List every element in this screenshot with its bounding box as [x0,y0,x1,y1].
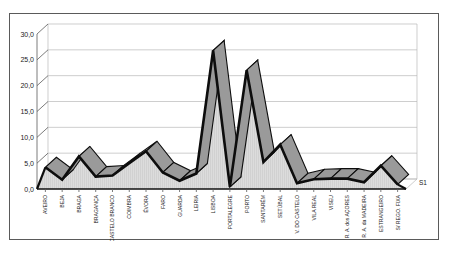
y-tick-label: 25,0 [20,56,34,63]
x-tick-label: VILA REAL [311,195,317,221]
plot-area: 0,05,010,015,020,025,030,0 AVEIROBEJABRA… [10,14,440,241]
x-tick-label: PORTALEGRE [227,194,233,229]
x-tick-label: AVEIRO [42,195,48,214]
y-tick [37,50,48,60]
x-tick-label: S/ REGO. FIXA [395,194,401,230]
x-tick-label: R. A. da MADEIRA [361,194,367,237]
area-chart[interactable]: 0,05,010,015,020,025,030,0 AVEIROBEJABRA… [10,14,440,241]
x-tick-label: LEIRIA [193,194,199,211]
x-tick-label: COIMBRA [126,194,132,218]
x-tick-label: FARO [160,195,166,209]
y-tick [37,153,48,163]
x-tick-label: BEJA [59,194,65,207]
x-tick-label: BRAGANÇA [93,194,99,223]
y-tick [37,24,48,34]
y-tick [37,76,48,86]
series-legend-label: S1 [419,179,427,186]
x-tick-label: SANTARÉM [260,195,266,223]
x-tick-label: R. A. dos AÇORES [344,194,350,238]
x-tick-label: GUARDA [177,194,183,216]
y-tick-label: 20,0 [20,82,34,89]
x-tick-labels: AVEIROBEJABRAGABRAGANÇACASTELO BRANCOCOI… [42,189,400,241]
x-tick-label: ÉVORA [143,194,149,212]
y-tick-label: 30,0 [20,31,34,38]
y-axis: 0,05,010,015,020,025,030,0 [20,24,48,193]
series-s1[interactable] [37,41,409,189]
x-tick-label: VISEU [328,195,334,211]
x-tick-label: V. DO CASTELO [294,195,300,234]
chart-frame: 0,05,010,015,020,025,030,0 AVEIROBEJABRA… [9,13,439,240]
x-tick-label: PORTO [244,195,250,213]
y-tick-label: 10,0 [20,134,34,141]
y-tick [37,102,48,112]
x-tick-label: SETÚBAL [277,195,283,218]
y-tick-label: 0,0 [24,186,34,193]
x-tick-label: LISBOA [210,194,216,213]
y-tick-label: 15,0 [20,108,34,115]
x-tick-label: ESTRANGEIRO [378,195,384,232]
x-tick-label: BRAGA [76,194,82,212]
x-tick-label: CASTELO BRANCO [109,195,115,241]
y-tick [37,127,48,137]
y-tick-label: 5,0 [24,160,34,167]
